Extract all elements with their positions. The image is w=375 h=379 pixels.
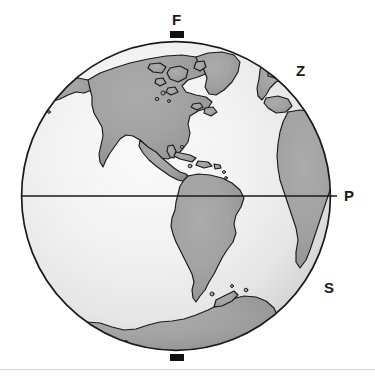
island-arctic-dot-3 (168, 100, 171, 103)
north-pole-tick (170, 31, 184, 38)
island-aleutian-2 (40, 109, 43, 112)
south-pole-tick (170, 354, 184, 361)
bottom-divider (0, 369, 375, 370)
island-arctic-dot-1 (161, 91, 165, 95)
island-arctic-dot-2 (155, 97, 158, 100)
island-falkland (210, 292, 214, 296)
island-lesser-antilles-1 (223, 171, 226, 174)
globe-diagram (0, 0, 375, 379)
island-antarctic-dot-2 (106, 346, 110, 350)
island-aleutian-1 (32, 104, 36, 108)
island-south-georgia (244, 288, 248, 292)
island-antarctic-dot-1 (231, 285, 234, 288)
island-antarctic-dot-4 (86, 342, 89, 345)
island-bahamas (180, 145, 183, 148)
island-jamaica (188, 164, 192, 168)
label-f: F (172, 12, 181, 27)
island-iceland (250, 56, 255, 61)
label-s: S (324, 280, 334, 295)
label-z: Z (296, 63, 305, 78)
island-puerto-rico (214, 164, 221, 169)
label-p: P (344, 188, 354, 203)
